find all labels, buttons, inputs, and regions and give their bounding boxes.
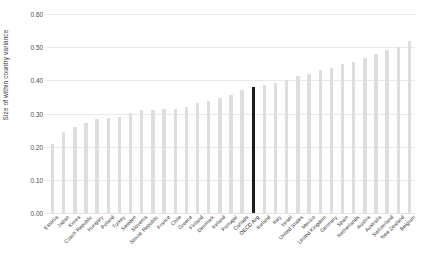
bar xyxy=(84,123,87,213)
plot-area: 0.600.500.400.300.200.100.00 xyxy=(47,14,415,213)
bar xyxy=(263,85,266,213)
y-axis-tick-label: 0.10 xyxy=(31,176,43,183)
bar xyxy=(296,76,299,213)
bar xyxy=(129,113,132,213)
bar xyxy=(196,103,199,213)
bar xyxy=(319,70,322,213)
y-axis-title: Size of within country variance xyxy=(2,0,16,160)
bar xyxy=(174,109,177,213)
bar xyxy=(162,109,165,213)
y-axis-tick-label: 0.30 xyxy=(31,110,43,117)
bar xyxy=(330,68,333,213)
bar xyxy=(73,127,76,213)
bar xyxy=(374,54,377,213)
y-axis-tick-label: 0.00 xyxy=(31,210,43,217)
bar xyxy=(140,110,143,213)
bar-chart: Size of within country variance 0.600.50… xyxy=(0,0,425,271)
bar xyxy=(274,83,277,213)
bar xyxy=(397,47,400,213)
bar xyxy=(341,64,344,213)
bar xyxy=(240,90,243,213)
bar xyxy=(363,58,366,213)
bar xyxy=(385,50,388,213)
bar xyxy=(408,41,411,213)
bar xyxy=(51,144,54,213)
bar xyxy=(285,80,288,213)
y-axis-tick-label: 0.50 xyxy=(31,44,43,51)
bar xyxy=(151,110,154,213)
bar xyxy=(207,101,210,213)
y-axis-tick-label: 0.20 xyxy=(31,143,43,150)
bar xyxy=(307,74,310,213)
y-axis-tick-label: 0.60 xyxy=(31,11,43,18)
bar xyxy=(95,119,98,213)
bar xyxy=(229,95,232,213)
bar xyxy=(352,62,355,213)
bar xyxy=(185,107,188,213)
x-axis-labels: EstoniaJapanKoreaCzech RepublicHungaryPo… xyxy=(47,214,415,271)
y-axis-tick-label: 0.40 xyxy=(31,77,43,84)
bar xyxy=(118,117,121,213)
bar xyxy=(107,118,110,213)
bar-highlighted xyxy=(252,87,256,213)
bar xyxy=(218,98,221,213)
bar xyxy=(62,132,65,213)
bar-series xyxy=(47,14,415,213)
